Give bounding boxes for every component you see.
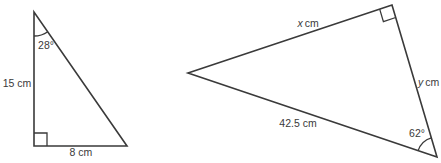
- left-triangle: 28° 15 cm 8 cm: [3, 12, 127, 158]
- side-unit-x: cm: [305, 17, 319, 29]
- side-unit-y: cm: [425, 76, 439, 88]
- side-label-42-5cm: 42.5 cm: [279, 117, 317, 129]
- angle-arc-28: [34, 32, 48, 36]
- side-label-8cm: 8 cm: [70, 146, 93, 158]
- right-angle-marker-left: [34, 133, 47, 146]
- side-var-y: y: [417, 76, 424, 88]
- right-triangle: xcm ycm 42.5 cm 62°: [188, 5, 440, 157]
- geometry-figure: 28° 15 cm 8 cm xcm ycm 42.5 cm 62°: [0, 0, 441, 163]
- angle-arc-62: [418, 138, 431, 151]
- angle-label-62: 62°: [409, 127, 425, 139]
- side-label-x-cm: xcm: [296, 17, 319, 29]
- side-label-15cm: 15 cm: [3, 77, 32, 89]
- side-var-x: x: [296, 17, 303, 29]
- side-label-y-cm: ycm: [417, 76, 440, 88]
- angle-label-28: 28°: [38, 39, 54, 51]
